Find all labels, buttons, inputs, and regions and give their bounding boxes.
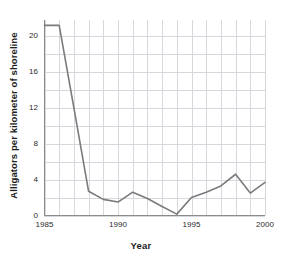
x-tick-label: 1990: [101, 220, 135, 229]
x-axis-title: Year: [0, 240, 282, 251]
gridlines-vertical: [46, 20, 266, 216]
x-tick-label: 2000: [248, 220, 282, 229]
y-tick-label: 8: [20, 139, 38, 148]
x-tick-label: 1985: [28, 220, 62, 229]
axis-lines: [45, 20, 266, 216]
chart-container: Alligators per kilometer of shoreline Ye…: [0, 0, 282, 259]
y-tick-label: 0: [20, 211, 38, 220]
y-tick-label: 12: [20, 103, 38, 112]
y-tick-label: 16: [20, 67, 38, 76]
x-tick-label: 1995: [175, 220, 209, 229]
data-series-line: [45, 25, 266, 214]
y-tick-label: 20: [20, 31, 38, 40]
y-tick-label: 4: [20, 175, 38, 184]
